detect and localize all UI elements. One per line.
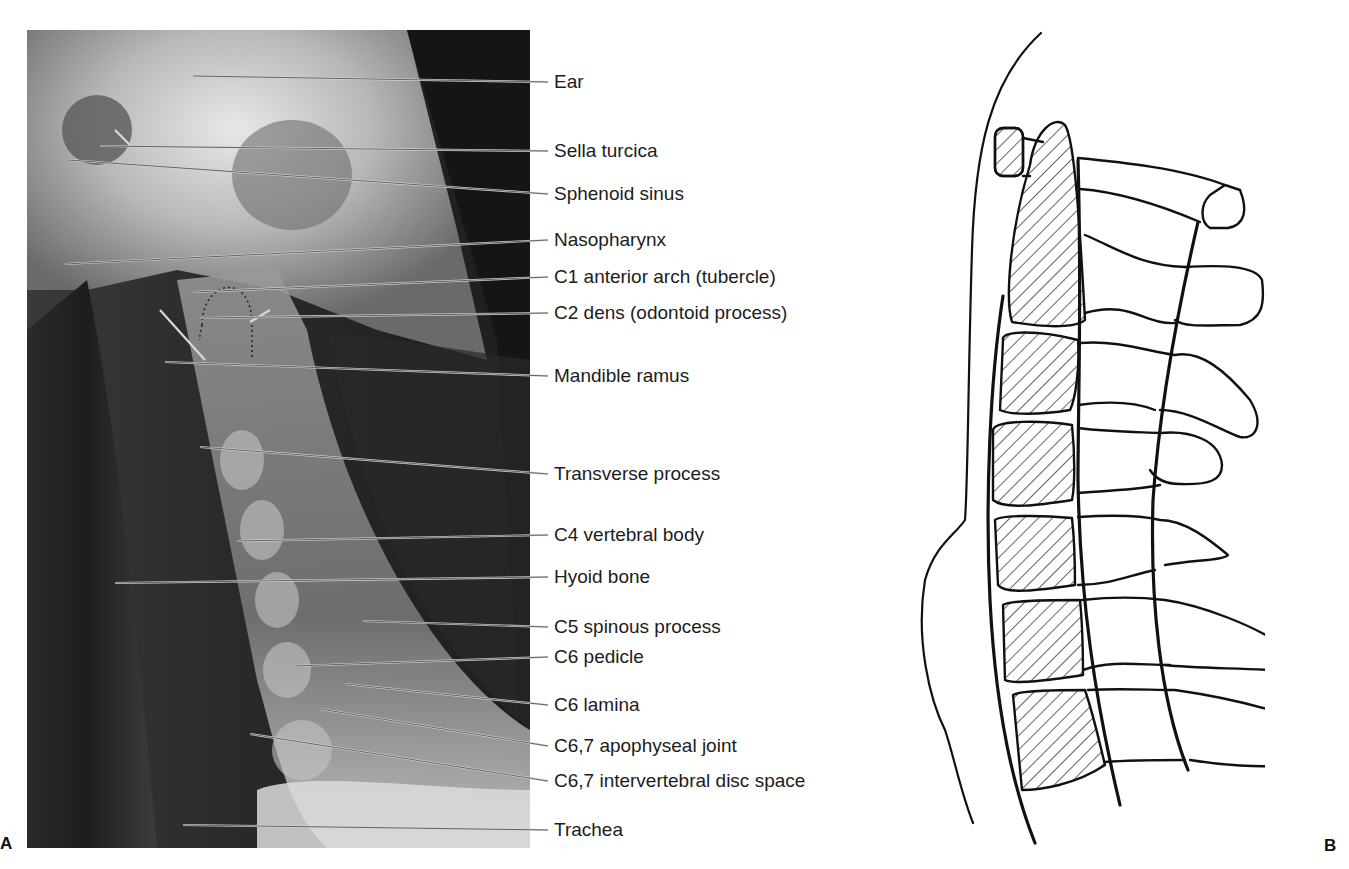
label-c4-vertebral-body: C4 vertebral body <box>554 524 704 546</box>
label-c6-pedicle: C6 pedicle <box>554 646 644 668</box>
leader-lines <box>0 0 560 869</box>
spine-line-drawing <box>905 25 1265 855</box>
label-c67-apophyseal-joint: C6,7 apophyseal joint <box>554 735 737 757</box>
label-mandible-ramus: Mandible ramus <box>554 365 689 387</box>
panel-b-letter: B <box>1324 836 1336 856</box>
label-c5-spinous-process: C5 spinous process <box>554 616 721 638</box>
panel-a-letter: A <box>0 834 12 854</box>
label-hyoid-bone: Hyoid bone <box>554 566 650 588</box>
label-c2-dens: C2 dens (odontoid process) <box>554 302 787 324</box>
label-c6-lamina: C6 lamina <box>554 694 640 716</box>
label-trachea: Trachea <box>554 819 623 841</box>
label-c1-anterior-arch: C1 anterior arch (tubercle) <box>554 266 776 288</box>
label-c67-disc-space: C6,7 intervertebral disc space <box>554 770 805 792</box>
label-ear: Ear <box>554 71 584 93</box>
label-sella-turcica: Sella turcica <box>554 140 658 162</box>
label-transverse-process: Transverse process <box>554 463 720 485</box>
label-sphenoid-sinus: Sphenoid sinus <box>554 183 684 205</box>
label-nasopharynx: Nasopharynx <box>554 229 666 251</box>
